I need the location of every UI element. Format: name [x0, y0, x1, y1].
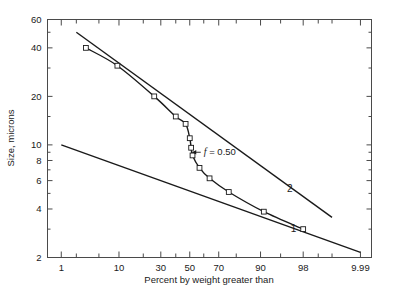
x-tick-label: 30: [156, 262, 167, 273]
chart-series-group: [61, 32, 360, 252]
y-tick-label: 6: [36, 175, 41, 186]
x-axis-title: Percent by weight greater than: [144, 274, 273, 285]
data-point-marker: [183, 121, 188, 126]
x-tick-label: 1: [59, 262, 64, 273]
y-tick-label: 4: [36, 203, 41, 214]
data-point-marker: [173, 114, 178, 119]
x-axis-major-ticks: [61, 20, 360, 258]
x-tick-label: 90: [255, 262, 266, 273]
plot-frame: [48, 20, 372, 258]
x-tick-label: 98: [298, 262, 309, 273]
data-point-marker: [197, 165, 202, 170]
curve-label-1: 1: [291, 223, 297, 234]
y-axis-major-ticks: [48, 20, 372, 258]
data-point-marker: [261, 209, 266, 214]
x-tick-label: 70: [213, 262, 224, 273]
chart-annotations: f = 0.50: [192, 146, 236, 157]
x-tick-label: 9.99: [351, 262, 370, 273]
data-point-marker: [189, 145, 194, 150]
y-axis-minor-ticks: [48, 32, 372, 229]
y-tick-label: 60: [31, 14, 42, 25]
y-axis-tick-labels: 604020108642: [31, 14, 42, 263]
data-point-marker: [190, 153, 195, 158]
chart-markers-group: [83, 45, 305, 231]
y-tick-label: 8: [36, 155, 41, 166]
data-point-marker: [152, 94, 157, 99]
y-tick-label: 40: [31, 42, 42, 53]
x-axis-tick-labels: 11030507090989.99: [59, 262, 370, 273]
data-point-marker: [301, 227, 306, 232]
series-line-1: [61, 145, 360, 253]
data-point-marker: [207, 176, 212, 181]
data-point-marker: [83, 45, 88, 50]
data-point-marker: [115, 63, 120, 68]
data-point-marker: [187, 136, 192, 141]
series-line-data: [86, 48, 303, 229]
annotation-label: f = 0.50: [204, 146, 236, 157]
y-tick-label: 10: [31, 139, 42, 150]
x-tick-label: 50: [184, 262, 195, 273]
chart-plot-area: 604020108642 11030507090989.99 12 f = 0.…: [0, 0, 408, 292]
y-tick-label: 20: [31, 91, 42, 102]
curve-label-2: 2: [287, 183, 293, 194]
y-axis-title: Size, microns: [5, 109, 16, 166]
data-point-marker: [226, 190, 231, 195]
x-tick-label: 10: [114, 262, 125, 273]
chart-figure: 604020108642 11030507090989.99 12 f = 0.…: [0, 0, 408, 292]
series-line-2: [76, 32, 332, 217]
y-tick-label: 2: [36, 252, 41, 263]
